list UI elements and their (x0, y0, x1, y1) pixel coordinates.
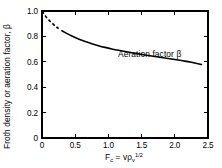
x-tick-label: 1.5 (136, 141, 148, 150)
x-tick-label: 2.0 (169, 141, 181, 150)
x-axis-title: Fc = vρv1/2 (105, 152, 143, 163)
y-tick-label: 0.8 (27, 32, 39, 41)
curve-annotation-label: Aeration factor β (118, 49, 181, 59)
x-title-exponent: 1/2 (135, 152, 143, 158)
y-axis-ticks-right (204, 11, 208, 138)
y-tick-label: 1.0 (27, 7, 39, 16)
x-title-rho: vρ (123, 152, 132, 162)
x-tick-label: 2.5 (203, 141, 215, 150)
y-axis-title: Froth density or aeration factor, β (2, 24, 12, 149)
curve-aeration-factor (62, 31, 201, 65)
x-axis-ticks-top (42, 11, 208, 15)
figure-container: 00.51.01.52.02.5 00.20.40.60.81.0 Aerati… (0, 0, 222, 168)
y-tick-label: 0.6 (27, 58, 39, 67)
x-axis-tick-labels: 00.51.01.52.02.5 (40, 141, 214, 150)
y-tick-label: 0.2 (27, 109, 39, 118)
x-tick-label: 1.0 (103, 141, 115, 150)
curve-dashed-segment (42, 11, 59, 29)
y-axis-tick-labels: 00.20.40.60.81.0 (27, 7, 39, 143)
x-tick-label: 0.5 (70, 141, 82, 150)
plot-frame (42, 11, 208, 138)
y-tick-label: 0.4 (27, 83, 39, 92)
aeration-factor-chart: 00.51.01.52.02.5 00.20.40.60.81.0 Aerati… (0, 0, 222, 168)
y-axis-ticks (42, 11, 46, 138)
x-tick-label: 0 (40, 141, 45, 150)
x-axis-ticks (42, 134, 208, 138)
y-tick-label: 0 (34, 134, 39, 143)
x-title-rho-subscript: v (132, 157, 135, 163)
